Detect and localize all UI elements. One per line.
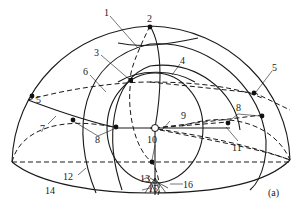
point-8-right-b: [260, 114, 265, 119]
label-9: 9: [181, 110, 186, 121]
label-3: 3: [94, 47, 99, 58]
hemisphere-diagram: 1 2 3 4 5 5 6 7 8 8 9 10 11 12 13 14 15 …: [0, 0, 300, 206]
label-5-right: 5: [272, 62, 277, 73]
label-8-right: 8: [236, 102, 241, 113]
label-6: 6: [83, 66, 88, 77]
label-16: 16: [183, 179, 193, 190]
label-5-left: 5: [36, 94, 41, 105]
label-7: 7: [40, 123, 45, 134]
label-1: 1: [104, 7, 109, 18]
label-4: 4: [180, 55, 185, 66]
label-15: 15: [148, 183, 158, 194]
label-8-left: 8: [95, 134, 100, 145]
label-14: 14: [45, 185, 55, 196]
point-5-right: [252, 91, 257, 96]
label-11: 11: [232, 142, 242, 153]
latitude-ring-inner: [12, 123, 118, 162]
point-5-left: [30, 94, 35, 99]
central-meridian: [150, 26, 160, 195]
label-12: 12: [63, 171, 73, 182]
label-10: 10: [147, 134, 157, 145]
label-2: 2: [147, 13, 152, 24]
point-9: [152, 125, 159, 132]
point-10: [150, 160, 155, 165]
point-2: [148, 25, 153, 30]
point-3: [129, 78, 134, 83]
latitude-ring-right: [182, 120, 290, 160]
panel-label: (a): [268, 187, 279, 199]
point-8-right-a: [226, 121, 231, 126]
latitude-line-7: [28, 100, 230, 128]
ray-9-8b: [155, 115, 262, 128]
ray-9-11: [160, 130, 290, 160]
latitude-ring-lower: [150, 128, 290, 160]
ray-9-5: [150, 82, 290, 110]
